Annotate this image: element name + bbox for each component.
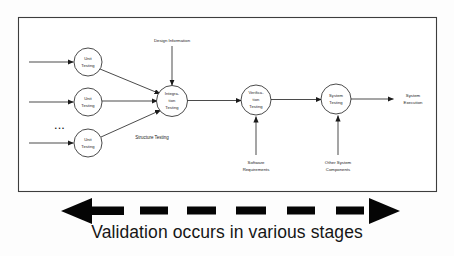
node-unit-testing-2: [74, 88, 102, 116]
node-unit-testing-3-line1: Unit: [84, 137, 92, 142]
label-system-execution-line2: Execution: [404, 100, 423, 105]
node-verification-testing-line3: Testing: [249, 104, 263, 109]
node-unit-testing-3: [74, 129, 102, 157]
diagram-caption: Validation occurs in various stages: [0, 222, 454, 243]
arrow-head-left: [61, 198, 92, 224]
label-software-requirements-line2: Requirements: [243, 167, 270, 172]
arrow-dash-5: [287, 207, 315, 215]
validation-range-arrow: [61, 198, 400, 224]
node-unit-testing-1: [74, 48, 102, 76]
arrow-dash-6: [336, 207, 364, 215]
node-verification-testing-line2: tion: [253, 97, 260, 102]
node-system-testing-line1: System: [329, 93, 343, 98]
node-unit-testing-2-line2: Testing: [81, 103, 95, 108]
label-software-requirements-line1: Software: [248, 160, 266, 165]
node-system-testing: [321, 84, 351, 114]
label-system-execution-line1: System: [406, 93, 421, 98]
arrow-dash-3: [187, 207, 216, 215]
testing-stages-diagram: Unit Testing Unit Testing Unit Testing I…: [0, 0, 454, 256]
node-unit-testing-2-line1: Unit: [84, 96, 92, 101]
label-other-system-components-line2: Components: [326, 167, 350, 172]
node-unit-testing-1-line2: Testing: [81, 63, 95, 68]
node-integration-testing-line2: tion: [169, 98, 176, 103]
node-integration-testing-line1: Integra-: [165, 91, 180, 96]
node-unit-testing-1-line1: Unit: [84, 56, 92, 61]
arrow-dash-2: [140, 207, 168, 215]
node-integration-testing-line3: Testing: [165, 105, 179, 110]
label-structure-testing: Structure Testing: [135, 135, 169, 140]
node-system-testing-line2: Testing: [329, 100, 343, 105]
diagram-scene: Unit Testing Unit Testing Unit Testing I…: [0, 0, 454, 256]
arrow-dash-4: [236, 207, 266, 215]
arrow-head-right: [369, 198, 400, 224]
arrow-dash-1: [92, 207, 124, 216]
label-design-information: Design Information: [154, 38, 191, 43]
node-unit-testing-3-line2: Testing: [81, 144, 95, 149]
node-verification-testing-line1: Verifica-: [248, 90, 264, 95]
label-other-system-components-line1: Other System: [325, 160, 352, 165]
ellipsis-more-units: ...: [54, 121, 65, 131]
